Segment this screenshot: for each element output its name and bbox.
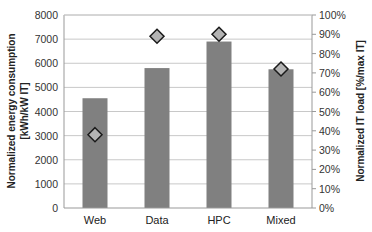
y2-tick-label: 40% bbox=[319, 125, 340, 137]
y-tick-label: 1000 bbox=[35, 178, 59, 190]
right-axis-ticks: 0%10%20%30%40%50%60%70%80%90%100% bbox=[312, 9, 346, 214]
y2-tick-label: 10% bbox=[319, 183, 340, 195]
y2-tick-label: 80% bbox=[319, 48, 340, 60]
right-axis-title: Normalized IT load [%/max IT] bbox=[355, 40, 366, 182]
y-tick-label: 7000 bbox=[35, 33, 59, 45]
left-axis-ticks: 010002000300040005000600070008000 bbox=[35, 9, 59, 214]
y-tick-label: 4000 bbox=[35, 106, 59, 118]
category-label: Data bbox=[145, 214, 169, 226]
bar-data bbox=[145, 68, 170, 208]
combo-chart: 010002000300040005000600070008000 0%10%2… bbox=[0, 0, 372, 232]
bar-hpc bbox=[207, 42, 232, 208]
diamond-marker-data bbox=[150, 29, 164, 43]
y2-tick-label: 0% bbox=[319, 202, 334, 214]
y2-tick-label: 20% bbox=[319, 163, 340, 175]
y-tick-label: 2000 bbox=[35, 154, 59, 166]
y-tick-label: 5000 bbox=[35, 81, 59, 93]
bar-mixed bbox=[269, 69, 294, 208]
y-tick-label: 8000 bbox=[35, 9, 59, 21]
y-tick-label: 3000 bbox=[35, 130, 59, 142]
y2-tick-label: 50% bbox=[319, 106, 340, 118]
y-tick-label: 6000 bbox=[35, 57, 59, 69]
bar-series bbox=[83, 42, 294, 208]
bar-web bbox=[83, 98, 108, 208]
y2-tick-label: 100% bbox=[319, 9, 346, 21]
y2-tick-label: 30% bbox=[319, 144, 340, 156]
category-label: Web bbox=[84, 214, 106, 226]
category-label: HPC bbox=[207, 214, 230, 226]
marker-series bbox=[88, 27, 288, 141]
category-axis: WebDataHPCMixed bbox=[84, 214, 296, 226]
left-axis-title: Normalized energy consumption bbox=[6, 33, 17, 188]
y2-tick-label: 70% bbox=[319, 67, 340, 79]
y2-tick-label: 60% bbox=[319, 86, 340, 98]
category-label: Mixed bbox=[266, 214, 295, 226]
left-axis-title-units: [kWh/kW IT] bbox=[19, 82, 30, 139]
y-tick-label: 0 bbox=[52, 202, 58, 214]
y2-tick-label: 90% bbox=[319, 28, 340, 40]
